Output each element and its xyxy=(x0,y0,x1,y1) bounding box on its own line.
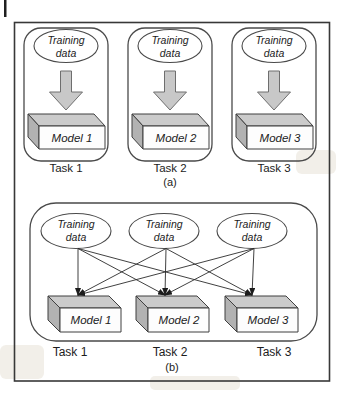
panel-a-unit-1: Training data Model 1 Task 1 xyxy=(24,28,108,174)
panel-a-unit-2: Training data Model 2 Task 2 xyxy=(128,28,212,174)
training-data-label-line2: data xyxy=(264,47,285,59)
scan-smudge xyxy=(150,376,240,390)
model-label: Model 1 xyxy=(52,132,93,144)
panel-b-model-1: Model 1 xyxy=(48,296,121,332)
task-label: Task 1 xyxy=(53,345,88,359)
training-data-label-line2: data xyxy=(56,47,77,59)
model-box-top-face xyxy=(225,296,298,308)
panel-a-caption: (a) xyxy=(163,176,176,188)
training-data-label-line1: Training xyxy=(233,218,270,230)
training-data-label-line1: Training xyxy=(145,218,182,230)
model-box: Model 3 xyxy=(236,114,313,149)
task-label: Task 3 xyxy=(257,162,290,174)
data-flow-arrows xyxy=(78,249,254,296)
training-data-label-line2: data xyxy=(242,231,263,243)
ml-tasks-figure: Training data Model 1 Task 1 Training da… xyxy=(0,0,340,393)
panel-b-model-2: Model 2 xyxy=(136,296,209,332)
panel-b-model-3: Model 3 xyxy=(225,296,298,332)
panel-b-caption: (b) xyxy=(165,361,178,373)
down-block-arrow-icon xyxy=(50,71,83,110)
model-box-top-face xyxy=(236,114,313,126)
model-box: Model 1 xyxy=(28,114,105,149)
training-data-label-line1: Training xyxy=(255,34,292,46)
down-block-arrow-icon xyxy=(154,71,187,110)
panel-b-data-1: Training data xyxy=(41,214,111,249)
task-label: Task 2 xyxy=(153,345,188,359)
model-box-top-face xyxy=(136,296,209,308)
model-box-top-face xyxy=(48,296,121,308)
model-box-top-face xyxy=(132,114,209,126)
panel-b: Model 1 Model 2 Model 3 Training data Tr… xyxy=(30,203,317,373)
down-block-arrow-icon xyxy=(258,71,291,110)
model-box: Model 2 xyxy=(132,114,209,149)
training-data-label-line1: Training xyxy=(151,34,188,46)
model-label: Model 2 xyxy=(156,132,198,144)
training-data-label-line1: Training xyxy=(57,218,94,230)
model-label: Model 3 xyxy=(248,314,290,326)
panel-a: Training data Model 1 Task 1 Training da… xyxy=(24,28,316,188)
task-label: Task 1 xyxy=(49,162,82,174)
task-label: Task 3 xyxy=(257,345,292,359)
arrow-data3-model3 xyxy=(252,249,254,296)
scan-smudge xyxy=(0,345,44,379)
training-data-label-line2: data xyxy=(66,231,87,243)
task-label: Task 2 xyxy=(153,162,186,174)
training-data-label-line2: data xyxy=(160,47,181,59)
model-label: Model 3 xyxy=(260,132,302,144)
model-label: Model 1 xyxy=(71,314,112,326)
training-data-label-line2: data xyxy=(154,231,175,243)
training-data-label-line1: Training xyxy=(47,34,84,46)
panel-b-data-2: Training data xyxy=(129,214,199,249)
model-label: Model 2 xyxy=(159,314,201,326)
model-box-top-face xyxy=(28,114,105,126)
page-margin-mark xyxy=(4,0,7,17)
panel-b-data-3: Training data xyxy=(217,214,287,249)
